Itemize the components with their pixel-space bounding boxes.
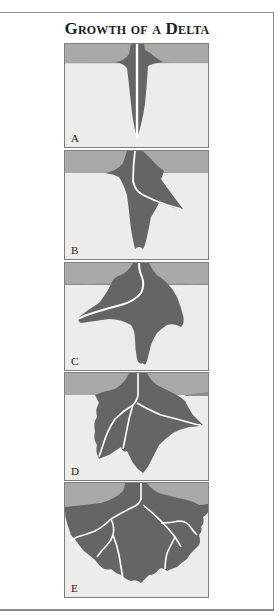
figure-title: Growth of a Delta <box>0 19 274 39</box>
panel-b: B <box>64 150 209 260</box>
delta-stage-c-illustration <box>65 263 209 371</box>
panel-label-e: E <box>71 582 78 594</box>
panel-label-c: C <box>71 355 78 367</box>
panel-label-a: A <box>71 132 79 144</box>
panel-label-d: D <box>71 465 79 477</box>
delta-stage-b-illustration <box>65 151 209 260</box>
delta-stage-a-illustration <box>65 44 209 148</box>
delta-stage-d-illustration <box>65 373 209 481</box>
delta-stage-e-illustration <box>65 483 209 598</box>
panel-d: D <box>64 372 209 481</box>
panel-c: C <box>64 262 209 371</box>
panel-e: E <box>64 482 209 598</box>
panel-a: A <box>64 43 209 148</box>
panel-label-b: B <box>71 244 78 256</box>
